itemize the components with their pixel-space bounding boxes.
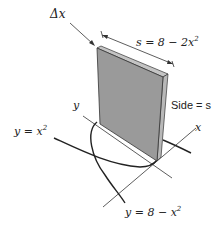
curve-upper-label: y = 8 − x2 bbox=[125, 206, 181, 218]
side-length-formula-text: s = 8 − 2x bbox=[136, 36, 194, 49]
plate-face bbox=[97, 48, 163, 161]
side-equals-s-label: Side = s bbox=[171, 100, 211, 111]
curve-lower-text: y = x bbox=[14, 125, 43, 138]
side-length-formula-exponent: 2 bbox=[194, 35, 198, 43]
curve-upper-exponent: 2 bbox=[177, 205, 181, 213]
delta-x-label: Δx bbox=[50, 8, 65, 20]
side-length-formula-label: s = 8 − 2x2 bbox=[136, 36, 199, 48]
volume-cross-section-diagram bbox=[0, 0, 221, 230]
curve-y-equals-x-squared-right bbox=[163, 140, 191, 153]
x-axis-label: x bbox=[195, 122, 201, 133]
curve-lower-exponent: 2 bbox=[43, 124, 47, 132]
curve-lower-label: y = x2 bbox=[14, 125, 47, 137]
y-axis-label: y bbox=[73, 100, 79, 111]
side-dimension-tick-left bbox=[101, 31, 103, 38]
curve-upper-text: y = 8 − x bbox=[125, 206, 177, 219]
delta-x-arrow bbox=[70, 23, 93, 44]
